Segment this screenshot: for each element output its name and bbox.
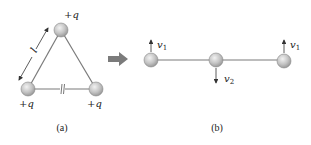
charge-label-top: +q <box>64 9 79 20</box>
velocity-label-left: v1 <box>157 39 167 52</box>
charge-ball-right <box>277 54 291 68</box>
triangle-right-edge <box>61 30 96 89</box>
panel-b: v1 v2 v1 (b) <box>144 39 300 134</box>
charge-ball-middle <box>209 53 223 67</box>
transition-arrow-icon <box>108 52 128 66</box>
charge-label-bottom-left: +q <box>19 98 34 109</box>
caption-a: (a) <box>56 122 67 134</box>
charge-label-bottom-right: +q <box>87 98 102 109</box>
diagram-canvas: l +q +q +q (a) v1 v2 v1 (b) <box>0 0 311 145</box>
charge-ball-top <box>54 23 68 37</box>
side-length-dimension: l <box>19 28 48 80</box>
break-mark-icon <box>60 84 65 94</box>
side-length-label: l <box>28 46 39 54</box>
caption-b: (b) <box>211 122 223 134</box>
charge-ball-bottom-left <box>21 82 35 96</box>
charge-ball-bottom-right <box>89 82 103 96</box>
charge-ball-left <box>144 53 158 67</box>
velocity-label-middle: v2 <box>224 73 234 86</box>
panel-a: l +q +q +q (a) <box>19 9 103 134</box>
triangle-left-edge <box>28 30 61 89</box>
velocity-label-right: v1 <box>290 39 300 52</box>
